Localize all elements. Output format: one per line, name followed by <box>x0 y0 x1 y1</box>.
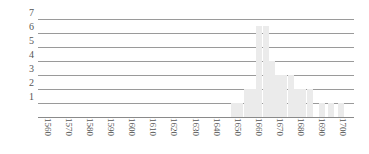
x-tick-label: 1610 <box>148 118 157 136</box>
x-tick-label: 1670 <box>275 118 284 136</box>
bar <box>319 103 325 117</box>
bar <box>288 75 294 117</box>
y-tick-label: 5 <box>29 36 34 46</box>
bar <box>328 103 334 117</box>
y-axis-tick-labels: 1234567 <box>18 13 36 117</box>
bar <box>307 89 313 117</box>
bar <box>294 89 300 117</box>
bar <box>281 75 287 117</box>
plot-area <box>38 13 354 117</box>
x-axis-tick-labels: 1560157015801590160016101620163016401650… <box>38 118 354 154</box>
x-tick-label: 1660 <box>254 118 263 136</box>
y-tick-label: 2 <box>29 78 34 88</box>
bar <box>231 103 237 117</box>
bar <box>269 61 275 117</box>
x-tick-label: 1590 <box>106 118 115 136</box>
bar <box>256 26 262 117</box>
x-tick-label: 1600 <box>127 118 136 136</box>
x-tick-label: 1650 <box>233 118 242 136</box>
x-tick-label: 1580 <box>85 118 94 136</box>
bar <box>275 75 281 117</box>
x-tick-label: 1560 <box>43 118 52 136</box>
bar <box>263 26 269 117</box>
x-tick-label: 1630 <box>191 118 200 136</box>
bar <box>300 89 306 117</box>
x-tick-label: 1690 <box>317 118 326 136</box>
x-tick-label: 1640 <box>212 118 221 136</box>
x-tick-label: 1620 <box>169 118 178 136</box>
histogram-chart: 1234567 15601570158015901600161016201630… <box>0 0 369 154</box>
y-tick-label: 6 <box>29 22 34 32</box>
y-tick-label: 3 <box>29 64 34 74</box>
y-tick-label: 4 <box>29 50 34 60</box>
bar <box>338 103 344 117</box>
bar-series <box>38 13 354 117</box>
bar <box>250 89 256 117</box>
y-tick-label: 1 <box>29 92 34 102</box>
bar <box>237 103 243 117</box>
x-tick-label: 1570 <box>64 118 73 136</box>
x-tick-label: 1700 <box>338 118 347 136</box>
y-tick-label: 7 <box>29 8 34 18</box>
bar <box>244 89 250 117</box>
x-tick-label: 1680 <box>296 118 305 136</box>
